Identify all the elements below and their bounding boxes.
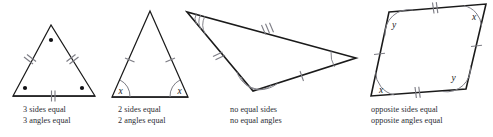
caption-isosceles-line1: 2 sides equal — [118, 105, 166, 116]
side-tick-left-double — [213, 52, 225, 60]
isosceles-triangle: x x — [112, 11, 188, 97]
angle-arc-double-bottom — [237, 72, 278, 90]
parallelogram: y x y x — [371, 2, 486, 98]
equal-angle-dot-right — [80, 86, 84, 90]
parallelogram-outline — [371, 4, 486, 96]
side-tick-left-single — [125, 58, 135, 62]
caption-equilateral: 3 sides equal 3 angles equal — [23, 105, 71, 126]
caption-parallelogram-line1: opposite sides equal — [371, 105, 443, 116]
equal-angle-dot-left — [23, 86, 27, 90]
angle-label-iso-right: x — [177, 86, 183, 96]
angle-label-para-bottom-right: y — [451, 73, 457, 83]
geometry-figure: x x — [0, 0, 493, 137]
scalene-triangle — [187, 12, 356, 91]
side-tick-right-single — [166, 58, 176, 62]
angle-label-para-bottom-left: x — [378, 85, 384, 95]
caption-equilateral-line2: 3 angles equal — [23, 116, 71, 127]
angle-label-para-top-right: x — [471, 12, 477, 22]
equal-angle-dot-apex — [49, 38, 53, 42]
caption-isosceles-line2: 2 angles equal — [118, 116, 166, 127]
caption-equilateral-line1: 3 sides equal — [23, 105, 71, 116]
caption-parallelogram: opposite sides equal opposite angles equ… — [371, 105, 443, 126]
side-tick-left-single — [374, 53, 385, 54]
angle-label-para-top-left: y — [391, 20, 397, 30]
side-tick-right-single — [471, 45, 482, 46]
equilateral-triangle — [13, 25, 95, 102]
caption-scalene-line1: no equal sides — [230, 105, 282, 116]
angle-label-iso-left: x — [118, 86, 124, 96]
isosceles-outline — [112, 11, 188, 97]
caption-parallelogram-line2: opposite angles equal — [371, 116, 443, 127]
caption-scalene-line2: no equal angles — [230, 116, 282, 127]
caption-scalene: no equal sides no equal angles — [230, 105, 282, 126]
caption-isosceles: 2 sides equal 2 angles equal — [118, 105, 166, 126]
equilateral-outline — [13, 25, 95, 96]
